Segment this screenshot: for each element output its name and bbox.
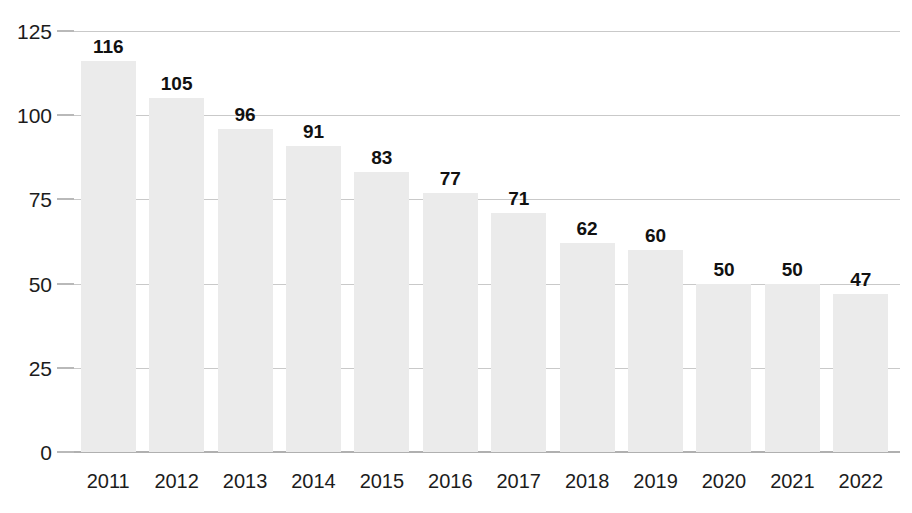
bar-2019[interactable]: 602019 [628,250,683,452]
bar-2022[interactable]: 472022 [833,294,888,452]
bar-value-label: 96 [234,105,255,124]
x-tick-label-2012: 2012 [154,471,199,491]
bar-rect[interactable] [286,146,341,452]
bar-value-label: 47 [850,270,871,289]
bar-2014[interactable]: 912014 [286,146,341,452]
bar-2011[interactable]: 1162011 [81,61,136,452]
bar-2020[interactable]: 502020 [696,284,751,452]
bar-value-label: 77 [440,169,461,188]
bar-chart: 0255075100125 11620111052012962013912014… [0,0,912,513]
x-tick-label-2018: 2018 [565,471,610,491]
bar-2016[interactable]: 772016 [423,193,478,452]
x-tick-label-2014: 2014 [291,471,336,491]
bar-rect[interactable] [491,213,546,452]
bar-rect[interactable] [423,193,478,452]
x-tick-label-2020: 2020 [702,471,747,491]
x-tick-label-2015: 2015 [360,471,405,491]
plot-area: 1162011105201296201391201483201577201671… [0,0,912,513]
bar-value-label: 105 [161,74,193,93]
x-tick-label-2021: 2021 [770,471,815,491]
bar-value-label: 71 [508,189,529,208]
x-tick-label-2016: 2016 [428,471,473,491]
bar-rect[interactable] [833,294,888,452]
bar-value-label: 116 [93,37,124,56]
bar-rect[interactable] [628,250,683,452]
bar-2013[interactable]: 962013 [218,129,273,452]
bar-2021[interactable]: 502021 [765,284,820,452]
bar-value-label: 62 [577,219,598,238]
bar-value-label: 91 [303,122,324,141]
x-tick-label-2017: 2017 [496,471,541,491]
x-tick-label-2022: 2022 [839,471,884,491]
bar-rect[interactable] [696,284,751,452]
bar-2017[interactable]: 712017 [491,213,546,452]
bar-2012[interactable]: 1052012 [149,98,204,452]
x-tick-label-2013: 2013 [223,471,268,491]
x-tick-label-2019: 2019 [633,471,678,491]
bar-rect[interactable] [765,284,820,452]
bar-rect[interactable] [560,243,615,452]
bar-value-label: 60 [645,226,666,245]
x-tick-label-2011: 2011 [87,471,130,491]
bar-rect[interactable] [81,61,136,452]
bar-value-label: 83 [371,148,392,167]
bar-value-label: 50 [713,260,734,279]
bar-rect[interactable] [218,129,273,452]
bar-value-label: 50 [782,260,803,279]
bar-rect[interactable] [149,98,204,452]
bar-rect[interactable] [354,172,409,452]
bar-2015[interactable]: 832015 [354,172,409,452]
bar-2018[interactable]: 622018 [560,243,615,452]
